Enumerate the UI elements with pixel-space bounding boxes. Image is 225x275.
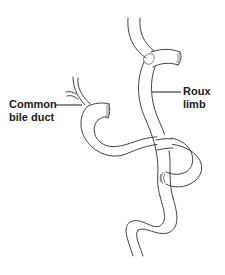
common-bile-duct-label: Common bile duct (9, 98, 57, 124)
cbd-label-line1: Common (9, 98, 57, 111)
common-channel (126, 196, 177, 256)
roux-label-line1: Roux (183, 85, 211, 98)
cbd-label-line2: bile duct (9, 111, 57, 124)
roux-limb-label: Roux limb (183, 85, 211, 111)
roux-label-line2: limb (183, 98, 211, 111)
top-anastomosis-stub (143, 49, 181, 67)
biliopancreatic-limb (81, 103, 202, 187)
common-bile-duct (66, 77, 90, 105)
upper-tube (128, 18, 154, 58)
roux-limb (138, 62, 173, 198)
anatomy-drawing (0, 0, 225, 275)
